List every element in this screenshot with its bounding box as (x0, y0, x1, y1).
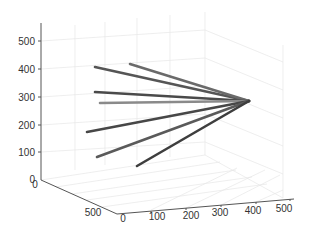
x-tick-label: 0 (120, 213, 126, 224)
z-tick-label: 300 (18, 92, 35, 103)
y-axis-tick-labels: 0500 (32, 179, 102, 218)
3d-line-plot: 5004003002001000 0500 0100200300400500 (0, 0, 311, 234)
data-line (100, 101, 249, 103)
z-axis-tick-labels: 5004003002001000 (18, 36, 35, 185)
x-tick-label: 400 (245, 205, 262, 216)
z-tick-label: 200 (18, 120, 35, 131)
y-tick-label: 500 (85, 207, 102, 218)
y-tick-label: 0 (32, 179, 38, 190)
x-tick-label: 500 (276, 203, 293, 214)
x-tick-label: 300 (212, 207, 229, 218)
z-tick-label: 400 (18, 64, 35, 75)
y-axis (41, 180, 117, 214)
data-lines (87, 64, 249, 166)
x-tick-label: 100 (149, 211, 166, 222)
z-tick-label: 500 (18, 36, 35, 47)
x-tick-label: 200 (183, 210, 200, 221)
z-tick-label: 100 (18, 147, 35, 158)
grid (41, 12, 283, 210)
data-line (97, 101, 249, 157)
